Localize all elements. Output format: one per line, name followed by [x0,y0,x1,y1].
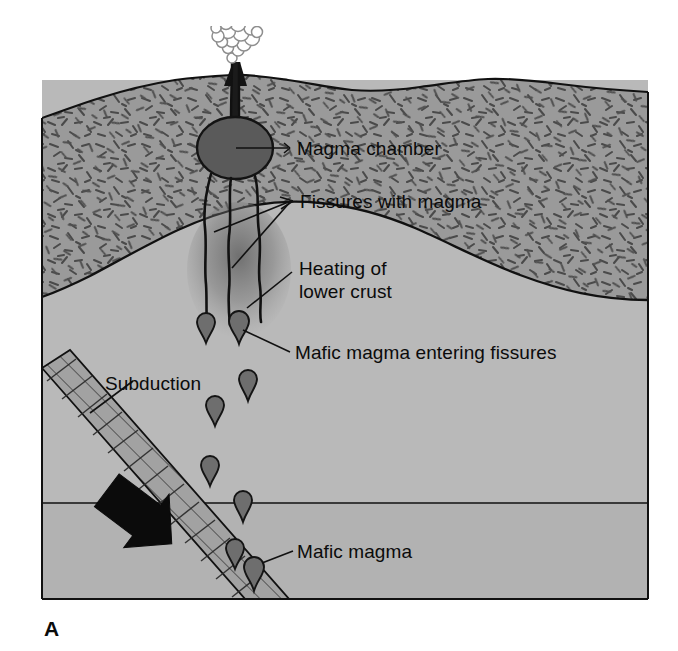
label-subduction: Subduction [105,373,201,394]
cross-section-diagram: Magma chamber Fissures with magma Heatin… [0,0,678,651]
label-mafic-magma-entering-fissures: Mafic magma entering fissures [295,342,557,363]
cross-section-body: Magma chamber Fissures with magma Heatin… [42,12,648,601]
label-heating-line1: Heating of [299,258,387,279]
figure-panel: Magma chamber Fissures with magma Heatin… [0,0,678,651]
label-magma-chamber: Magma chamber [297,138,441,159]
label-fissures-with-magma: Fissures with magma [300,191,482,212]
panel-letter-label: A [44,617,59,640]
label-heating-line2: lower crust [299,281,393,302]
label-mafic-magma: Mafic magma [297,541,412,562]
